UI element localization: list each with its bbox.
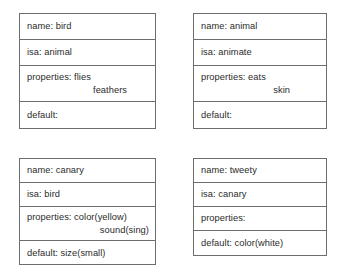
frame-tweety-row-default: default: color(white) <box>194 231 326 255</box>
frame-animal-row-isa: isa: animate <box>194 40 326 66</box>
frame-bird-row-isa: isa: animal <box>20 40 155 66</box>
frame-canary-row-isa: isa: bird <box>20 183 155 207</box>
frame-tweety-row-isa: isa: canary <box>194 183 326 207</box>
frame-canary-row-default: default: size(small) <box>20 241 155 265</box>
frame-canary-default-text: default: size(small) <box>27 247 155 260</box>
frame-canary-properties-text: properties: color(yellow) <box>27 211 155 224</box>
frame-canary-properties-continuation: sound(sing) <box>27 224 155 237</box>
frame-animal-row-default: default: <box>194 102 326 128</box>
frame-animal-row-properties: properties: eats skin <box>194 66 326 102</box>
frame-bird-row-name: name: bird <box>20 14 155 40</box>
frame-tweety-row-name: name: tweety <box>194 159 326 183</box>
frame-canary-row-properties: properties: color(yellow) sound(sing) <box>20 207 155 241</box>
frame-bird-properties-continuation: feathers <box>27 84 155 97</box>
frame-animal-properties-continuation: skin <box>201 84 326 97</box>
frame-animal-default-text: default: <box>201 109 326 122</box>
frame-canary-row-name: name: canary <box>20 159 155 183</box>
frame-animal-row-name: name: animal <box>194 14 326 40</box>
frame-bird-isa-text: isa: animal <box>27 46 155 59</box>
frame-animal-isa-text: isa: animate <box>201 46 326 59</box>
frame-tweety-name-text: name: tweety <box>201 164 326 177</box>
frame-bird-row-properties: properties: flies feathers <box>20 66 155 102</box>
frame-animal-name-text: name: animal <box>201 20 326 33</box>
frame-tweety-properties-text: properties: <box>201 212 326 225</box>
frame-canary-name-text: name: canary <box>27 164 155 177</box>
frame-canary: name: canary isa: bird properties: color… <box>19 158 156 265</box>
frame-diagram: name: bird isa: animal properties: flies… <box>0 0 345 280</box>
frame-bird-row-default: default: <box>20 102 155 128</box>
frame-animal-properties-text: properties: eats <box>201 71 326 84</box>
frame-animal: name: animal isa: animate properties: ea… <box>193 13 327 129</box>
frame-bird-properties-text: properties: flies <box>27 71 155 84</box>
frame-canary-isa-text: isa: bird <box>27 188 155 201</box>
frame-tweety: name: tweety isa: canary properties: def… <box>193 158 327 256</box>
frame-bird: name: bird isa: animal properties: flies… <box>19 13 156 129</box>
frame-tweety-row-properties: properties: <box>194 207 326 231</box>
frame-tweety-default-text: default: color(white) <box>201 237 326 250</box>
frame-bird-name-text: name: bird <box>27 20 155 33</box>
frame-bird-default-text: default: <box>27 109 155 122</box>
frame-tweety-isa-text: isa: canary <box>201 188 326 201</box>
